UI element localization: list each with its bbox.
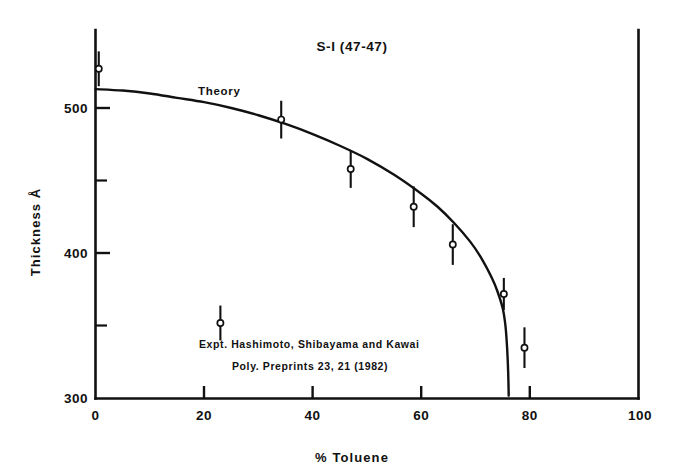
- theory-series-label: Theory: [198, 85, 241, 97]
- x-axis-title: % Toluene: [315, 450, 389, 465]
- y-axis-title: Thickness Å: [28, 188, 43, 277]
- data-point-2: [348, 150, 354, 188]
- chart-title: S-I (47-47): [316, 39, 387, 54]
- y-axis-ticks: [96, 108, 111, 326]
- data-point-6: [521, 327, 527, 368]
- data-point-4: [450, 224, 456, 265]
- y-tick-label-400: 400: [64, 246, 88, 261]
- open-circle-marker-icon: [411, 204, 417, 210]
- y-axis-tick-labels: 500 400 300: [64, 101, 88, 406]
- legend-marker-open-circle-icon: [217, 306, 223, 341]
- open-circle-marker-icon: [348, 166, 354, 172]
- legend-line-1: Expt. Hashimoto, Shibayama and Kawai: [199, 338, 420, 350]
- x-tick-label-80: 80: [522, 408, 538, 423]
- open-circle-marker-icon: [450, 241, 456, 247]
- legend-sample-marker: [217, 306, 223, 341]
- x-axis-tick-labels: 0 20 40 60 80 100: [91, 408, 652, 423]
- x-tick-label-20: 20: [196, 408, 212, 423]
- figure-container: 500 400 300 0 20 40 60 80 100 S-I (47-47…: [0, 0, 677, 475]
- x-axis-ticks: [204, 386, 530, 399]
- open-circle-marker-icon: [217, 320, 223, 326]
- y-tick-label-500: 500: [64, 101, 88, 116]
- x-tick-label-100: 100: [628, 408, 652, 423]
- open-circle-marker-icon: [501, 291, 507, 297]
- data-point-1: [278, 101, 284, 139]
- x-tick-label-0: 0: [91, 408, 99, 423]
- x-tick-label-40: 40: [305, 408, 321, 423]
- experimental-series: [96, 51, 528, 368]
- data-point-3: [411, 186, 417, 227]
- chart-canvas: 500 400 300 0 20 40 60 80 100 S-I (47-47…: [0, 0, 677, 475]
- legend-line-2: Poly. Preprints 23, 21 (1982): [232, 360, 388, 372]
- open-circle-marker-icon: [96, 66, 102, 72]
- x-tick-label-60: 60: [413, 408, 429, 423]
- open-circle-marker-icon: [278, 117, 284, 123]
- open-circle-marker-icon: [521, 345, 527, 351]
- legend: Expt. Hashimoto, Shibayama and Kawai Pol…: [199, 306, 420, 372]
- y-tick-label-300: 300: [64, 391, 88, 406]
